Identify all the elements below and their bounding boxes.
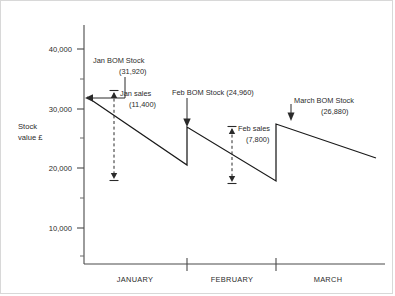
stock-sawtooth-chart: 40,000 30,000 20,000 10,000 Stock value … bbox=[1, 1, 394, 295]
jan-bom-label-line1: Jan BOM Stock bbox=[93, 56, 145, 65]
feb-bom-arrowhead bbox=[183, 119, 190, 128]
y-axis-title-line1: Stock bbox=[18, 122, 37, 131]
feb-bom-label-line1: Feb BOM Stock (24,960) bbox=[172, 88, 254, 97]
annotation-jan-sales: Jan sales (11,400) bbox=[110, 89, 156, 181]
ytick-label-10000: 10,000 bbox=[49, 224, 72, 233]
jan-sales-top-arrowhead bbox=[111, 92, 117, 98]
annotation-feb-sales: Feb sales (7,800) bbox=[228, 124, 271, 184]
march-bom-label-line1: March BOM Stock bbox=[294, 96, 354, 105]
y-axis-title-line2: value £ bbox=[18, 133, 43, 142]
ytick-label-30000: 30,000 bbox=[49, 105, 72, 114]
feb-sales-label-line2: (7,800) bbox=[246, 135, 269, 144]
feb-sales-label-line1: Feb sales bbox=[238, 124, 270, 133]
month-label-january: JANUARY bbox=[117, 275, 153, 284]
jan-sales-label-line2: (11,400) bbox=[129, 100, 156, 109]
jan-sales-label-line1: Jan sales bbox=[120, 89, 152, 98]
jan-sales-bottom-arrowhead bbox=[111, 173, 117, 179]
month-label-march: MARCH bbox=[314, 275, 343, 284]
jan-bom-label-line2: (31,920) bbox=[119, 67, 147, 76]
annotation-march-bom-stock: March BOM Stock (26,880) bbox=[288, 96, 355, 121]
feb-sales-top-arrowhead bbox=[229, 128, 235, 134]
y-axis-ticks bbox=[77, 49, 84, 256]
feb-sales-bottom-arrowhead bbox=[229, 176, 235, 182]
annotation-feb-bom-stock: Feb BOM Stock (24,960) bbox=[172, 88, 254, 127]
month-label-february: FEBRUARY bbox=[211, 275, 254, 284]
ytick-label-20000: 20,000 bbox=[49, 164, 72, 173]
jan-bom-arrowhead bbox=[85, 94, 93, 102]
ytick-label-40000: 40,000 bbox=[49, 45, 72, 54]
march-bom-label-line2: (26,880) bbox=[321, 107, 349, 116]
chart-frame: 40,000 30,000 20,000 10,000 Stock value … bbox=[0, 0, 393, 294]
march-bom-arrowhead bbox=[288, 113, 295, 122]
